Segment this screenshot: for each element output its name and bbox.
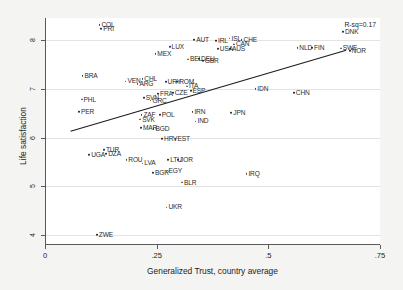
point-marker-icon [152,172,154,174]
point-marker-icon [175,138,177,140]
data-point-grc: GRC [150,97,167,104]
data-point-blr: BLR [181,179,196,186]
data-point-aut: AUT [193,37,209,44]
point-label: IRL [218,37,228,44]
point-label: AUT [196,36,209,43]
data-point-lva: LVA [142,160,156,167]
point-label: POL [162,111,175,118]
y-tick-label-5: 5 [26,183,40,190]
point-label: NOR [352,46,366,53]
point-marker-icon [202,60,204,62]
point-marker-icon [159,114,161,116]
point-marker-icon [125,80,127,82]
point-label: MEX [157,49,171,56]
data-point-zwe: ZWE [96,232,113,239]
data-point-pol: POL [159,112,175,119]
point-marker-icon [96,234,98,236]
point-label: IRQ [248,170,259,177]
y-tick-mark-7 [41,89,45,90]
point-marker-icon [165,81,167,83]
point-marker-icon [193,39,195,41]
point-label: LUX [172,42,184,49]
point-label: IND [198,117,209,124]
data-point-nor: NOR [349,47,366,54]
data-point-mex: MEX [155,50,172,57]
x-tick-mark-3 [380,245,381,249]
point-marker-icon [167,158,169,160]
point-marker-icon [140,127,142,129]
data-point-svk: SVK [139,116,155,123]
y-tick-text: 4 [30,233,37,237]
data-point-phl: PHL [81,96,96,103]
point-marker-icon [176,81,178,83]
data-point-esp: ESP [190,88,206,95]
point-marker-icon [297,47,299,49]
point-label: ZWE [99,231,113,238]
point-marker-icon [143,96,145,98]
plot-area: COLPRIDNKAUTISLCHEIRLCANLUXNLDFINSWENORU… [45,18,380,245]
point-marker-icon [161,138,163,140]
point-marker-icon [246,173,248,175]
point-label: AUS [232,45,245,52]
point-marker-icon [217,48,219,50]
data-point-dnk: DNK [342,29,358,36]
data-point-idn: IDN [255,85,269,92]
data-point-bra: BRA [82,72,98,79]
y-tick-label-6: 6 [26,134,40,141]
regression-fit-line [46,18,381,245]
rsq-annotation: R-sq=0.17 [344,21,376,28]
point-label: GRC [152,96,166,103]
point-label: JOR [180,155,193,162]
y-tick-text: 6 [30,136,37,140]
point-label: EST [177,135,189,142]
y-tick-text: 7 [30,87,37,91]
point-marker-icon [349,50,351,52]
point-label: IRN [194,108,205,115]
point-marker-icon [215,40,217,42]
point-marker-icon [142,162,144,164]
y-tick-label-8: 8 [26,36,40,43]
point-label: CHN [296,88,310,95]
data-point-irn: IRN [192,109,206,116]
data-point-gbr: GBR [202,58,219,65]
point-marker-icon [229,48,231,50]
point-marker-icon [195,120,197,122]
data-point-nld: NLD [297,44,313,51]
point-label: ESP [193,87,206,94]
y-tick-text: 5 [30,184,37,188]
x-tick-label-1: .25 [151,251,162,260]
point-label: UKR [168,203,181,210]
point-label: DNK [345,28,358,35]
data-point-arg: ARG [137,81,154,88]
point-marker-icon [166,206,168,208]
point-label: FIN [314,43,324,50]
point-marker-icon [150,99,152,101]
x-tick-label-2: .5 [265,251,271,260]
point-marker-icon [186,85,188,87]
data-point-per: PER [78,109,94,116]
point-label: NLD [299,43,312,50]
point-label: ARG [139,80,153,87]
x-tick-mark-0 [45,245,46,249]
data-point-dza: DZA [105,150,121,157]
point-label: GBR [205,57,219,64]
point-label: BLR [184,178,196,185]
data-point-irl: IRL [215,38,228,45]
point-label: CZE [175,88,188,95]
y-tick-text: 8 [30,38,37,42]
point-marker-icon [100,28,102,30]
point-label: BGD [156,124,170,131]
point-label: LVA [144,159,155,166]
point-marker-icon [230,112,232,114]
x-tick-mark-2 [268,245,269,249]
data-point-ukr: UKR [166,204,182,211]
point-marker-icon [177,158,179,160]
point-marker-icon [181,181,183,183]
data-point-egy: EGY [166,168,182,175]
x-tick-mark-1 [157,245,158,249]
data-point-uga: UGA [88,151,105,158]
point-marker-icon [255,88,257,90]
point-label: BRA [85,71,98,78]
point-label: JPN [233,109,245,116]
point-marker-icon [139,118,141,120]
